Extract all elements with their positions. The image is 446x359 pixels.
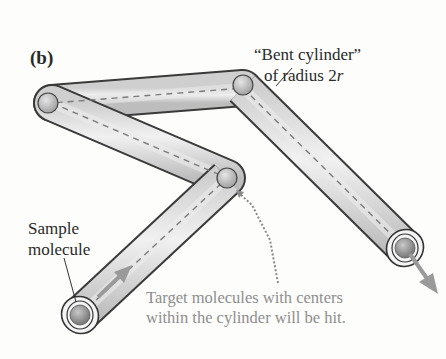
- sample-molecule-sphere: [70, 305, 90, 325]
- bent-cylinder-label: “Bent cylinder” of radius 2r: [254, 44, 361, 86]
- collision-sphere-top: [233, 75, 253, 95]
- collision-sphere-left: [38, 93, 58, 113]
- velocity-arrow-end: [410, 254, 438, 294]
- target-caption-line1: Target molecules with centers: [146, 288, 346, 308]
- bent-cylinder-label-line1: “Bent cylinder”: [254, 44, 361, 65]
- radius-text: of radius 2: [264, 66, 337, 85]
- target-dotted-leader: [240, 194, 278, 283]
- collision-sphere-middle: [217, 168, 237, 188]
- radius-variable: r: [337, 66, 344, 85]
- panel-label: (b): [30, 49, 53, 67]
- bent-cylinder-label-line2: of radius 2r: [254, 65, 361, 86]
- sample-label-line1: Sample: [28, 218, 90, 239]
- sample-label-line2: molecule: [28, 239, 90, 260]
- target-caption-line2: within the cylinder will be hit.: [146, 308, 346, 328]
- bent-cylinder-diagram: (b) “Bent cylinder” of radius 2r Sample …: [0, 0, 446, 359]
- target-molecules-caption: Target molecules with centers within the…: [146, 288, 346, 328]
- sample-molecule-label: Sample molecule: [28, 218, 90, 260]
- sample-molecule-leader: [64, 258, 76, 302]
